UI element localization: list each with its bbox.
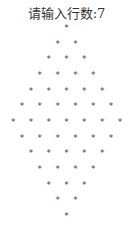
star-glyph: *: [45, 118, 53, 126]
star-glyph: *: [36, 102, 44, 110]
star-glyph: *: [27, 118, 35, 126]
star-glyph: *: [18, 134, 26, 142]
star-glyph: *: [89, 102, 97, 110]
star-glyph: *: [80, 87, 88, 95]
star-glyph: *: [71, 134, 79, 142]
star-glyph: *: [45, 149, 53, 157]
star-glyph: *: [18, 102, 26, 110]
star-glyph: *: [63, 149, 71, 157]
star-glyph: *: [71, 102, 79, 110]
star-glyph: *: [80, 55, 88, 63]
star-glyph: *: [27, 87, 35, 95]
star-glyph: *: [36, 71, 44, 79]
star-glyph: *: [98, 118, 106, 126]
star-diamond-output: ****************************************…: [0, 0, 133, 228]
star-glyph: *: [63, 55, 71, 63]
star-glyph: *: [54, 40, 62, 48]
star-glyph: *: [54, 102, 62, 110]
star-glyph: *: [63, 87, 71, 95]
star-glyph: *: [45, 55, 53, 63]
star-glyph: *: [98, 87, 106, 95]
star-glyph: *: [9, 118, 17, 126]
star-glyph: *: [71, 196, 79, 204]
star-glyph: *: [63, 212, 71, 220]
star-glyph: *: [45, 181, 53, 189]
star-glyph: *: [89, 71, 97, 79]
star-glyph: *: [54, 196, 62, 204]
star-glyph: *: [63, 118, 71, 126]
star-glyph: *: [63, 24, 71, 32]
star-glyph: *: [27, 149, 35, 157]
star-glyph: *: [54, 165, 62, 173]
star-glyph: *: [54, 71, 62, 79]
star-glyph: *: [116, 118, 124, 126]
star-glyph: *: [80, 181, 88, 189]
star-glyph: *: [89, 134, 97, 142]
star-glyph: *: [54, 134, 62, 142]
star-glyph: *: [80, 149, 88, 157]
star-glyph: *: [107, 134, 115, 142]
star-glyph: *: [71, 165, 79, 173]
star-glyph: *: [89, 165, 97, 173]
star-glyph: *: [107, 102, 115, 110]
star-glyph: *: [63, 181, 71, 189]
star-glyph: *: [80, 118, 88, 126]
star-glyph: *: [36, 134, 44, 142]
star-glyph: *: [71, 40, 79, 48]
star-glyph: *: [36, 165, 44, 173]
star-glyph: *: [98, 149, 106, 157]
star-glyph: *: [45, 87, 53, 95]
star-glyph: *: [71, 71, 79, 79]
